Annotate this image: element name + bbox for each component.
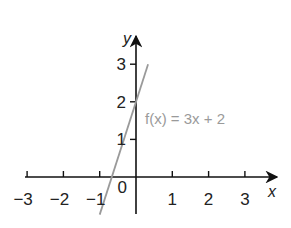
y-tick-label: 1: [117, 130, 126, 149]
x-tick-label: 1: [168, 190, 177, 209]
x-tick-label: 2: [204, 190, 213, 209]
x-tick-label: 3: [240, 190, 249, 209]
origin-label: 0: [118, 178, 127, 197]
y-tick-label: 2: [117, 93, 126, 112]
y-tick-label: 3: [117, 55, 126, 74]
y-axis-label: y: [122, 30, 132, 47]
x-axis-label: x: [267, 183, 277, 200]
function-graph: −3−2−11231230xyf(x) = 3x + 2: [0, 0, 291, 228]
x-tick-label: −2: [50, 190, 69, 209]
x-tick-label: −1: [86, 190, 105, 209]
function-label: f(x) = 3x + 2: [145, 110, 225, 127]
x-tick-label: −3: [13, 190, 32, 209]
